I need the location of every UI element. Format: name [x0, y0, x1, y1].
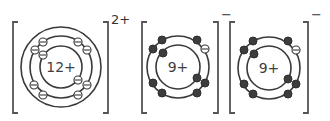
- electron-dot-icon: [159, 49, 167, 57]
- charge-label: 2+: [111, 12, 130, 27]
- mgf2-ionic-diagram: 2+ 12+ − 9+ − 9+: [0, 0, 330, 121]
- electron-dot-icon: [158, 89, 166, 97]
- nucleus-label: 9+: [168, 59, 189, 75]
- electron-minus-icon: [74, 76, 82, 84]
- electron-dot-icon: [193, 74, 201, 82]
- electron-dot-icon: [292, 80, 300, 88]
- electron-dot-icon: [158, 36, 166, 44]
- electron-minus-icon: [39, 51, 47, 59]
- electron-dot-icon: [240, 46, 248, 54]
- electron-minus-icon: [292, 46, 300, 54]
- electron-dot-icon: [240, 80, 248, 88]
- electron-minus-icon: [83, 81, 91, 89]
- charge-label: −: [221, 7, 232, 22]
- right-bracket: [303, 22, 308, 113]
- left-bracket: [230, 22, 235, 113]
- left-bracket: [13, 22, 18, 113]
- nucleus-label: 12+: [46, 59, 76, 75]
- electron-minus-icon: [74, 91, 82, 99]
- electron-minus-icon: [31, 46, 39, 54]
- electron-minus-icon: [39, 38, 47, 46]
- electron-dot-icon: [193, 36, 201, 44]
- fluoride-ion-1: − 9+: [142, 7, 232, 113]
- electron-dot-icon: [284, 90, 292, 98]
- nucleus-label: 9+: [259, 60, 280, 76]
- charge-label: −: [311, 7, 322, 22]
- electron-dot-icon: [284, 37, 292, 45]
- electron-minus-icon: [83, 46, 91, 54]
- electron-dot-icon: [284, 75, 292, 83]
- electron-minus-icon: [30, 81, 38, 89]
- electron-dot-icon: [201, 79, 209, 87]
- electron-dot-icon: [249, 37, 257, 45]
- electron-minus-icon: [74, 38, 82, 46]
- electron-dot-icon: [249, 90, 257, 98]
- right-bracket: [103, 22, 108, 113]
- magnesium-ion: 2+ 12+: [13, 12, 130, 113]
- right-bracket: [213, 22, 218, 113]
- electron-dot-icon: [193, 89, 201, 97]
- electron-dot-icon: [149, 79, 157, 87]
- electron-minus-icon: [201, 45, 209, 53]
- electron-dot-icon: [250, 50, 258, 58]
- electron-dot-icon: [149, 45, 157, 53]
- electron-minus-icon: [39, 91, 47, 99]
- fluoride-ion-2: − 9+: [230, 7, 322, 113]
